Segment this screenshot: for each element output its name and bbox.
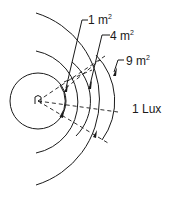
label-area-1: 1 m2 bbox=[88, 14, 112, 26]
label-area-4: 4 m2 bbox=[110, 30, 134, 42]
label-area-4-exp: 2 bbox=[130, 29, 134, 36]
label-area-1-value: 1 m bbox=[88, 13, 108, 27]
arc-r1 bbox=[60, 85, 65, 117]
ray-bottom bbox=[38, 101, 108, 143]
label-area-4-value: 4 m bbox=[110, 29, 130, 43]
leader-9m2 bbox=[114, 60, 124, 72]
label-area-1-exp: 2 bbox=[108, 13, 112, 20]
label-illuminance: 1 Lux bbox=[132, 103, 161, 115]
inverse-square-diagram bbox=[0, 0, 176, 198]
label-area-9-exp: 2 bbox=[146, 54, 150, 61]
label-area-9-value: 9 m bbox=[126, 54, 146, 68]
arrow-1m2 bbox=[64, 84, 68, 92]
arrow-lower-1 bbox=[60, 110, 64, 118]
arc-r3b bbox=[96, 55, 115, 140]
label-area-9: 9 m2 bbox=[126, 55, 150, 67]
arc-r2b bbox=[72, 62, 90, 136]
